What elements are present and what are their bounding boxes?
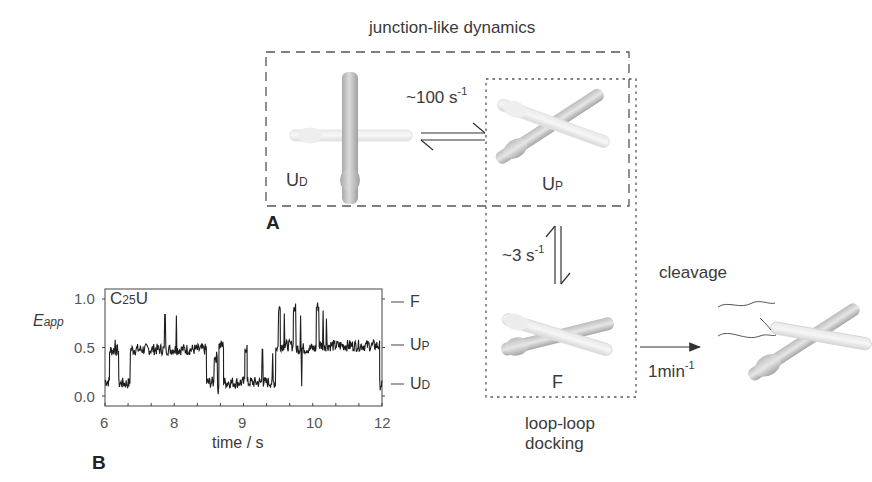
rate-ud-up: ~100 s-1 [406, 88, 467, 108]
junction-dynamics-title: junction-like dynamics [369, 18, 535, 38]
loop-docking-title-line2: docking [525, 434, 584, 454]
state-label-up: UP [542, 174, 563, 195]
up-molecule [492, 84, 612, 168]
state-marker-ud: UD [410, 375, 430, 393]
state-label-ud: UD [286, 170, 308, 191]
x-tick-8: 8 [170, 414, 178, 431]
y-tick-1.0: 1.0 [74, 290, 95, 307]
panel-label-a: A [266, 212, 280, 234]
cleavage-label: cleavage [659, 263, 727, 283]
rate-cleavage: 1min-1 [648, 362, 695, 382]
f-molecule [499, 310, 616, 359]
ud-molecule [290, 72, 412, 204]
x-tick-9: 9 [238, 414, 246, 431]
trace-inset-title: C25U [110, 289, 148, 309]
x-tick-12: 12 [374, 414, 391, 431]
panel-label-b: B [92, 452, 106, 474]
x-tick-6: 6 [100, 414, 108, 431]
equilibrium-arrow-up-f [546, 226, 570, 284]
y-axis-label: Eapp [33, 312, 64, 330]
fret-trace-line [105, 303, 382, 395]
y-tick-0.5: 0.5 [74, 339, 95, 356]
state-label-f: F [552, 372, 563, 393]
state-marker-f: F [410, 293, 420, 311]
rate-up-f: ~3 s-1 [502, 246, 544, 266]
x-tick-10: 10 [306, 414, 323, 431]
equilibrium-arrow-ud-up [421, 123, 485, 150]
diagram-graphics [0, 0, 872, 482]
state-marker-up: UP [410, 336, 430, 354]
y-tick-0.0: 0.0 [74, 388, 95, 405]
x-axis-label: time / s [212, 434, 264, 452]
loop-docking-title-line1: loop-loop [525, 414, 595, 434]
cleaved-product-molecule [718, 298, 872, 386]
